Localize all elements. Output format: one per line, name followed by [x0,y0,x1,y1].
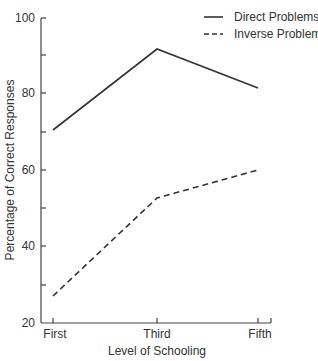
x-tick-labels: First Third Fifth [43,327,271,341]
legend-inverse-problems: Inverse Problems [234,27,318,41]
series-direct-problems [53,49,258,130]
x-tick-third: Third [143,327,170,341]
x-tick-fifth: Fifth [248,327,271,341]
x-tick-first: First [43,327,67,341]
y-tick-80: 80 [22,86,36,100]
axes [41,18,271,323]
x-axis-title: Level of Schooling [108,344,206,358]
y-tick-labels: 100 80 60 40 20 [15,11,35,330]
y-tick-20: 20 [22,316,36,330]
line-chart: 100 80 60 40 20 First Third Fifth Level … [0,0,318,361]
y-tick-40: 40 [22,239,36,253]
y-tick-60: 60 [22,163,36,177]
legend: Direct Problems Inverse Problems [204,10,318,41]
series-inverse-problems [53,170,258,296]
y-axis-title: Percentage of Correct Responses [3,80,17,261]
legend-direct-problems: Direct Problems [234,10,318,24]
y-tick-100: 100 [15,11,35,25]
